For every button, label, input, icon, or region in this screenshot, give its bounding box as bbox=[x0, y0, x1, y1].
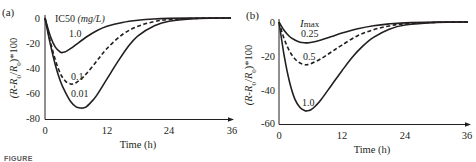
curve-label-imax-0.25: 0.25 bbox=[301, 28, 319, 39]
panel-b: (b) (R-R0/R0)*100 0 -20 -40 -60 0 12 24 … bbox=[243, 9, 472, 156]
y-tick-label: 0 bbox=[270, 17, 275, 28]
curve-label-ic50-0.1: 0.1 bbox=[71, 71, 84, 82]
y-tick-label: 0 bbox=[35, 13, 40, 24]
curve-label-imax-1.0: 1.0 bbox=[302, 97, 315, 108]
panel-a-x-axis-title: Time (h) bbox=[120, 139, 157, 151]
panel-a-y-axis-title: (R-R0/R0)*100 bbox=[8, 38, 23, 99]
y-tick-label: -40 bbox=[26, 63, 40, 74]
figure: (a) (R-R0/R0)*100 0 -20 -40 -60 -80 0 12… bbox=[0, 0, 476, 162]
x-tick-label: 0 bbox=[42, 125, 47, 136]
y-tick-label: -60 bbox=[26, 88, 40, 99]
curve-label-imax-0.5: 0.5 bbox=[303, 51, 316, 62]
x-tick-label: 24 bbox=[164, 125, 175, 136]
x-tick-label: 12 bbox=[337, 130, 348, 141]
panel-a: (a) (R-R0/R0)*100 0 -20 -40 -60 -80 0 12… bbox=[2, 6, 237, 151]
panel-b-label: (b) bbox=[246, 9, 259, 22]
y-tick-label: -20 bbox=[26, 38, 40, 49]
panel-a-x-ticks: 0 12 24 36 bbox=[42, 125, 237, 136]
x-tick-label: 36 bbox=[227, 125, 238, 136]
panel-b-x-axis-title: Time (h) bbox=[354, 144, 391, 156]
x-tick-label: 12 bbox=[102, 125, 113, 136]
y-tick-label: -40 bbox=[261, 85, 275, 96]
x-tick-label: 24 bbox=[400, 130, 411, 141]
y-tick-label: -80 bbox=[26, 113, 40, 124]
x-tick-label: 36 bbox=[462, 130, 473, 141]
panel-b-y-ticks: 0 -20 -40 -60 bbox=[261, 17, 275, 129]
panel-a-legend-title: IC50 (mg/L) bbox=[55, 13, 105, 25]
x-tick-label: 0 bbox=[276, 130, 281, 141]
panel-a-y-ticks: 0 -20 -40 -60 -80 bbox=[26, 13, 40, 124]
figure-caption-fragment: FIGURE bbox=[4, 155, 33, 162]
panel-b-y-axis-title: (R-R0/R0)*100 bbox=[243, 45, 258, 106]
panel-b-x-ticks: 0 12 24 36 bbox=[276, 130, 472, 141]
curve-label-ic50-0.01: 0.01 bbox=[71, 88, 89, 99]
curve-label-ic50-1.0: 1.0 bbox=[69, 28, 82, 39]
y-tick-label: -60 bbox=[261, 118, 275, 129]
y-tick-label: -20 bbox=[261, 51, 275, 62]
panel-a-label: (a) bbox=[2, 6, 15, 19]
